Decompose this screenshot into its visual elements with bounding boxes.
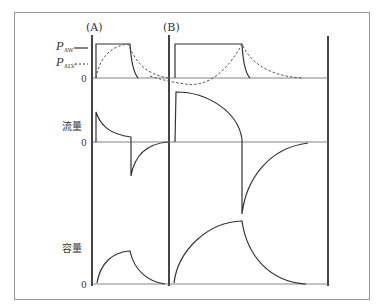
figure-frame (15, 13, 370, 300)
svg-text:P: P (55, 40, 64, 53)
flow-curve-b (175, 92, 308, 214)
flow-curve-a (96, 112, 168, 176)
svg-text:P: P (55, 56, 64, 69)
volume-curve-a (97, 251, 165, 284)
pressure-legend: P AW P ALV (55, 40, 88, 69)
panel-label-b: (B) (163, 21, 180, 34)
pressure-zero-label: 0 (81, 74, 87, 84)
volume-label: 容量 (62, 242, 82, 254)
ventilation-waveform-diagram: (A) (B) P AW P ALV 0 流量 0 容量 0 (0, 0, 381, 308)
svg-text:ALV: ALV (63, 63, 76, 69)
palv-curve-b (150, 44, 302, 85)
flow-zero-label: 0 (81, 138, 87, 148)
volume-curve-b (174, 221, 306, 284)
volume-zero-label: 0 (81, 280, 87, 290)
flow-label: 流量 (62, 120, 82, 132)
svg-text:AW: AW (63, 47, 74, 53)
panel-label-a: (A) (86, 21, 103, 34)
